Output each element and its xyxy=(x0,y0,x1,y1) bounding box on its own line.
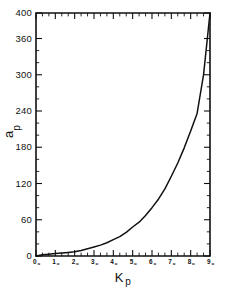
y-tick-label: 300 xyxy=(16,69,32,80)
x-tick-digit: 1 xyxy=(52,258,56,265)
x-tick-suffix: o xyxy=(115,261,118,266)
y-tick-label: 0 xyxy=(27,250,32,261)
x-tick-digit: 3 xyxy=(91,258,95,265)
x-tick-digit: 8 xyxy=(188,258,192,265)
y-tick-label: 60 xyxy=(21,214,32,225)
chart-figure: 060120180240300360400 0o1o2o3o4o5o6o7o8o… xyxy=(0,0,231,291)
y-tick-label: 180 xyxy=(16,141,32,152)
y-tick-label: 400 xyxy=(16,7,32,18)
y-tick-label: 240 xyxy=(16,105,32,116)
x-tick-digit: 6 xyxy=(149,258,153,265)
x-tick-digit: 9 xyxy=(207,258,211,265)
x-tick-suffix: o xyxy=(76,261,79,266)
x-tick-digit: 5 xyxy=(130,258,134,265)
x-tick-digit: 2 xyxy=(72,258,76,265)
x-tick-suffix: o xyxy=(57,261,60,266)
x-tick-suffix: o xyxy=(95,261,98,266)
x-tick-suffix: o xyxy=(192,261,195,266)
x-tick-suffix: o xyxy=(173,261,176,266)
x-tick-suffix: o xyxy=(134,261,137,266)
x-tick-suffix: o xyxy=(153,261,156,266)
x-tick-digit: 7 xyxy=(168,258,172,265)
x-axis-title-text: K xyxy=(115,270,124,285)
x-tick-suffix: o xyxy=(211,261,214,266)
x-tick-digit: 4 xyxy=(110,258,114,265)
y-axis-title-sub: p xyxy=(11,125,22,131)
x-tick-suffix: o xyxy=(37,261,40,266)
chart-background xyxy=(0,0,231,291)
x-tick-digit: 0 xyxy=(33,258,37,265)
ap-vs-kp-chart: 060120180240300360400 0o1o2o3o4o5o6o7o8o… xyxy=(0,0,231,291)
y-tick-label: 360 xyxy=(16,33,32,44)
y-tick-label: 120 xyxy=(16,178,32,189)
x-axis-title-sub: p xyxy=(125,276,131,287)
